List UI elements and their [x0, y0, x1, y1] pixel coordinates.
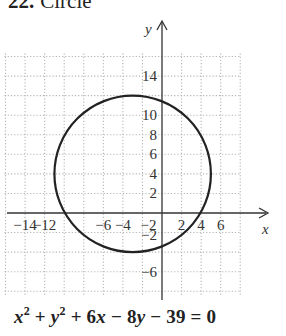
- x-tick-label: 4: [197, 217, 205, 233]
- y-tick-label: 10: [142, 107, 157, 123]
- equation-label: x2 + y2 + 6x − 8y − 39 = 0: [14, 306, 216, 328]
- y-axis-label: y: [143, 21, 152, 37]
- y-tick-label: 2: [150, 185, 158, 201]
- y-tick-label: 8: [150, 127, 158, 143]
- x-tick-label: −4: [115, 217, 131, 233]
- y-tick-label: 4: [150, 166, 158, 182]
- x-tick-label: −6: [95, 217, 111, 233]
- x-tick-label: −12: [33, 217, 56, 233]
- graph-plot: xy−14−12−6−4−224614108642−2−6: [0, 0, 286, 336]
- y-tick-label: 14: [142, 68, 158, 84]
- y-tick-label: 6: [150, 146, 158, 162]
- x-tick-label: 6: [217, 217, 225, 233]
- grid-lines: [5, 54, 241, 296]
- y-tick-label: −6: [141, 264, 157, 280]
- x-axis-label: x: [261, 221, 269, 237]
- tick-labels: xy−14−12−6−4−224614108642−2−6: [13, 21, 269, 280]
- x-tick-label: 2: [178, 217, 186, 233]
- y-tick-label: −2: [141, 227, 157, 243]
- axes: [7, 21, 268, 300]
